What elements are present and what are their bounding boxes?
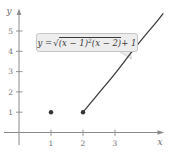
x-tick-label: 3 [113,139,118,148]
x-axis-arrowhead-icon [158,130,165,134]
y-axis-arrowhead-icon [17,9,22,16]
data-points [49,110,85,114]
formula-suffix: + 1 [121,38,136,48]
formula-radicand: (x − 1)2(x − 2) [59,37,122,49]
y-tick-label: 1 [8,108,13,117]
plot-area: y x 123 12345 [0,0,172,154]
radical-sign: √ [53,37,58,47]
figure-canvas: y x 123 12345 y = √ (x − 1)2(x − 2) + 1 [0,0,172,154]
x-tick-label: 1 [49,139,54,148]
formula-lhs: y = [38,38,53,48]
x-axis-label: x [157,137,162,147]
solid-point [49,110,53,114]
y-axis-ticks: 12345 [8,27,22,117]
y-tick-label: 3 [8,67,13,76]
y-axis-label: y [5,6,12,16]
solid-point [81,110,85,114]
axes: y x [4,6,164,147]
y-tick-label: 5 [8,27,13,36]
formula-callout: y = √ (x − 1)2(x − 2) + 1 [36,33,138,52]
x-tick-label: 2 [81,139,86,148]
function-curve [83,14,163,113]
y-tick-label: 2 [8,88,13,97]
y-tick-label: 4 [8,47,13,56]
